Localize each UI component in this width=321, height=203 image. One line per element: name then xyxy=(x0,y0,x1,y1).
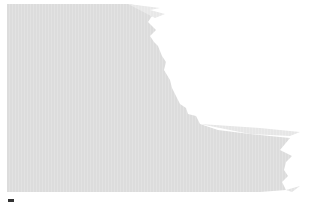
image-canvas xyxy=(0,0,321,203)
dark-mark xyxy=(8,199,14,202)
brushed-texture-shape xyxy=(0,0,321,203)
